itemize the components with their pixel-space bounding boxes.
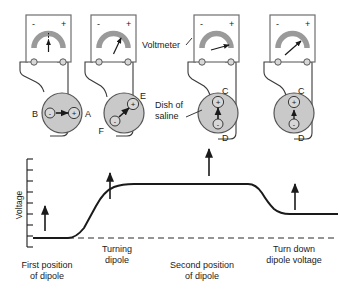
y-axis-label: Voltage xyxy=(14,191,24,220)
meter-4-plus: + xyxy=(305,19,310,29)
caption-2-line1: Turning xyxy=(102,244,132,254)
meter-3-plus: + xyxy=(229,19,234,29)
dish-4: + - C D xyxy=(274,86,314,143)
dish-3-positive-label: C xyxy=(222,86,229,96)
dish-1-negative-label: B xyxy=(32,109,38,119)
caption-4: Turn down dipole voltage xyxy=(266,244,322,265)
meter-3: - + xyxy=(194,15,239,65)
caption-4-line2: dipole voltage xyxy=(266,255,322,265)
caption-2-line2: dipole xyxy=(105,255,129,265)
caption-1-line2: of dipole xyxy=(30,271,64,281)
dish-1: - + B A xyxy=(32,93,91,133)
caption-3-line1: Second position xyxy=(170,260,234,270)
voltage-chart: Voltage First position of dipole Turning… xyxy=(14,149,338,281)
meter-2-minus: - xyxy=(97,19,100,29)
dish-2-negative-label: F xyxy=(99,126,105,136)
caption-3: Second position of dipole xyxy=(170,260,234,281)
apparatus-3: - + + - C D Dish of saline xyxy=(155,15,239,143)
apparatus-2: - + - + F E xyxy=(85,15,146,136)
dish-3-positive-sign: + xyxy=(216,98,221,107)
meter-2: - + xyxy=(91,15,136,65)
dish-2-positive-label: E xyxy=(140,91,146,101)
meter-1-plus: + xyxy=(61,19,66,29)
dish-1-positive-sign: + xyxy=(72,109,77,118)
dish-1-positive-label: A xyxy=(85,109,91,119)
meter-4: - + xyxy=(270,15,315,65)
caption-2: Turning dipole xyxy=(102,244,132,265)
dish-label-line1: Dish of xyxy=(155,100,184,110)
voltmeter-dipole-figure: - + - + B A xyxy=(0,0,340,295)
caption-3-line2: of dipole xyxy=(185,271,219,281)
voltmeter-label: Voltmeter xyxy=(142,40,180,50)
meter-1: - + xyxy=(26,15,71,65)
dish-3: + - C D xyxy=(198,86,238,143)
figure-canvas: - + - + B A xyxy=(0,0,340,295)
dish-4-negative-label: D xyxy=(298,133,305,143)
dish-4-positive-label: C xyxy=(298,86,305,96)
voltmeter-annotation: Voltmeter xyxy=(142,38,192,50)
dish-2: - + F E xyxy=(99,91,147,136)
dish-label-line2: saline xyxy=(155,111,179,121)
meter-2-plus: + xyxy=(126,19,131,29)
caption-1: First position of dipole xyxy=(21,260,72,281)
voltage-curve xyxy=(33,184,338,238)
dish-3-negative-label: D xyxy=(222,133,229,143)
meter-1-minus: - xyxy=(32,19,35,29)
caption-4-line1: Turn down xyxy=(273,244,315,254)
y-axis xyxy=(27,159,33,247)
apparatus-1: - + - + B A xyxy=(20,15,91,136)
dish-2-positive-sign: + xyxy=(131,100,136,109)
caption-1-line1: First position xyxy=(21,260,72,270)
apparatus-4: - + + - C D xyxy=(264,15,315,143)
dish-4-positive-sign: + xyxy=(292,98,297,107)
dish-annotation: Dish of saline xyxy=(155,100,202,121)
meter-3-minus: - xyxy=(200,19,203,29)
meter-4-minus: - xyxy=(276,19,279,29)
